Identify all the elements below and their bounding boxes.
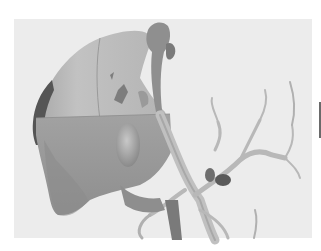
gallbladder — [116, 123, 140, 167]
liver-render — [0, 0, 321, 251]
